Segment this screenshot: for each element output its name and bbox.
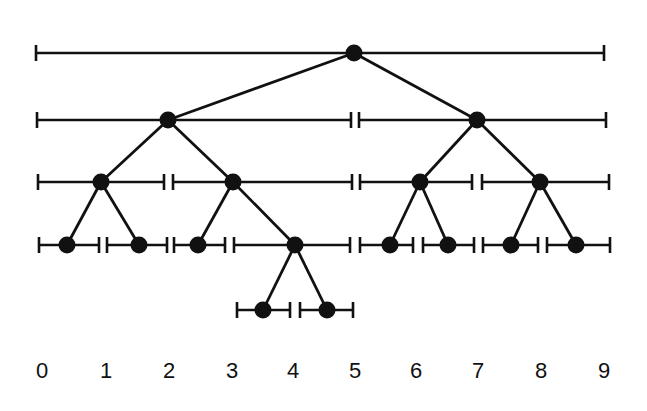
interval-segment xyxy=(36,45,604,61)
tree-node xyxy=(382,237,399,254)
tree-node xyxy=(568,237,585,254)
tree-edge xyxy=(420,120,477,182)
tree-edge xyxy=(198,182,233,245)
axis-label-8: 8 xyxy=(535,358,547,384)
axis-label-2: 2 xyxy=(163,358,175,384)
segment-tree-diagram xyxy=(0,0,647,411)
tree-node xyxy=(503,237,520,254)
tree-edge xyxy=(101,182,139,245)
axis-label-9: 9 xyxy=(598,358,610,384)
tree-edge xyxy=(511,182,540,245)
tree-edge xyxy=(101,120,168,182)
axis-label-3: 3 xyxy=(226,358,238,384)
axis-label-4: 4 xyxy=(287,358,299,384)
tree-node xyxy=(440,237,457,254)
tree-edge xyxy=(540,182,576,245)
tree-node xyxy=(287,237,304,254)
tree-edge xyxy=(354,53,477,120)
tree-node xyxy=(469,112,486,129)
interval-segments xyxy=(36,45,610,318)
tree-edge xyxy=(477,120,540,182)
interval-segment xyxy=(173,174,352,190)
tree-node xyxy=(319,302,336,319)
tree-node xyxy=(131,237,148,254)
axis-label-0: 0 xyxy=(36,358,48,384)
axis-label-6: 6 xyxy=(410,358,422,384)
tree-edge xyxy=(420,182,448,245)
tree-node xyxy=(59,237,76,254)
tree-edge xyxy=(233,182,295,245)
tree-node xyxy=(532,174,549,191)
axis-label-5: 5 xyxy=(349,358,361,384)
tree-node xyxy=(225,174,242,191)
tree-node xyxy=(93,174,110,191)
interval-segment xyxy=(37,112,351,128)
tree-edge xyxy=(67,182,101,245)
axis-label-1: 1 xyxy=(100,358,112,384)
tree-node xyxy=(160,112,177,129)
tree-node xyxy=(255,302,272,319)
tree-node xyxy=(412,174,429,191)
tree-edge xyxy=(168,53,354,120)
tree-edge xyxy=(390,182,420,245)
axis-label-7: 7 xyxy=(472,358,484,384)
tree-edge xyxy=(168,120,233,182)
tree-node xyxy=(346,45,363,62)
tree-edge xyxy=(295,245,327,310)
tree-edge xyxy=(263,245,295,310)
tree-node xyxy=(190,237,207,254)
